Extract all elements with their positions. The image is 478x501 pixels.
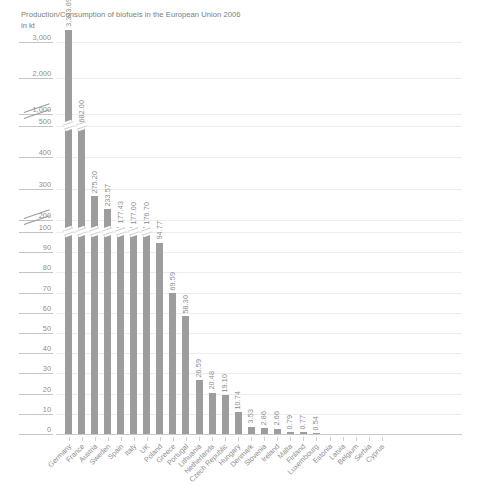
y-tick-label: 60 xyxy=(11,305,51,313)
bar-axis-break xyxy=(128,226,139,237)
bar-group[interactable]: 177.43 xyxy=(114,30,127,434)
x-tick xyxy=(82,437,83,441)
bar[interactable] xyxy=(169,293,176,434)
bar-group[interactable]: 19.10 xyxy=(219,30,232,434)
bar-value-label: 20.48 xyxy=(208,371,215,390)
y-tick-label: 10 xyxy=(11,406,51,414)
y-tick-rule xyxy=(19,157,53,158)
x-tick xyxy=(356,437,357,441)
y-tick-rule xyxy=(19,414,53,415)
x-tick xyxy=(343,437,344,441)
x-tick xyxy=(264,437,265,441)
bar-group[interactable] xyxy=(349,30,362,434)
plot-area: 3,0002,0001,0005004003002001009080706050… xyxy=(56,30,462,434)
bar-group[interactable] xyxy=(336,30,349,434)
y-tick-label: 2,000 xyxy=(11,70,51,78)
x-tick xyxy=(251,437,252,441)
bar-group[interactable]: 176.70 xyxy=(140,30,153,434)
bar[interactable] xyxy=(130,227,137,434)
bar-group[interactable]: 20.48 xyxy=(206,30,219,434)
bar-group[interactable]: 233.57 xyxy=(101,30,114,434)
x-tick xyxy=(277,437,278,441)
bar-group[interactable] xyxy=(375,30,388,434)
bar-value-label: 177.43 xyxy=(117,201,124,224)
y-tick-label: 80 xyxy=(11,264,51,272)
y-tick-label: 0 xyxy=(11,426,51,434)
x-tick xyxy=(316,437,317,441)
x-tick xyxy=(212,437,213,441)
bar-axis-break xyxy=(76,226,87,237)
x-tick xyxy=(173,437,174,441)
bar-group[interactable]: 682.00 xyxy=(75,30,88,434)
bar-group[interactable]: 0.79 xyxy=(284,30,297,434)
y-tick-label: 90 xyxy=(11,244,51,252)
y-tick-label: 30 xyxy=(11,365,51,373)
x-tick xyxy=(160,437,161,441)
bar-value-label: 0.77 xyxy=(300,415,307,429)
x-tick xyxy=(108,437,109,441)
bar-group[interactable]: 0.54 xyxy=(310,30,323,434)
bar-axis-break xyxy=(102,226,113,237)
bar-value-label: 69.59 xyxy=(169,272,176,291)
bar-value-label: 26.59 xyxy=(195,359,202,378)
bar-group[interactable]: 177.00 xyxy=(127,30,140,434)
page-title: Production/Consumption of biofuels in th… xyxy=(21,9,441,20)
bar[interactable] xyxy=(104,209,111,434)
bar-group[interactable] xyxy=(362,30,375,434)
chart-header: Production/Consumption of biofuels in th… xyxy=(21,9,441,31)
bar-value-label: 176.70 xyxy=(143,202,150,225)
y-tick-rule xyxy=(19,333,53,334)
bar-value-label: 94.77 xyxy=(156,221,163,240)
bar-group[interactable]: 275.20 xyxy=(88,30,101,434)
y-tick-rule xyxy=(19,126,53,127)
bar[interactable] xyxy=(78,125,85,434)
y-tick-rule xyxy=(19,252,53,253)
bar-group[interactable]: 26.59 xyxy=(193,30,206,434)
bar-group[interactable]: 3,343.69 xyxy=(62,30,75,434)
bar-value-label: 58.30 xyxy=(182,295,189,314)
bar-group[interactable]: 0.77 xyxy=(297,30,310,434)
bar-value-label: 0.79 xyxy=(287,415,294,429)
bar-group[interactable]: 2.86 xyxy=(258,30,271,434)
x-tick xyxy=(290,437,291,441)
x-axis: GermanyFranceAustriaSwedenSpainItalyUKPo… xyxy=(56,437,462,501)
bar-group[interactable]: 94.77 xyxy=(153,30,166,434)
y-tick-rule xyxy=(19,434,53,435)
bar-value-label: 233.57 xyxy=(104,184,111,207)
bar[interactable] xyxy=(143,227,150,434)
bar[interactable] xyxy=(182,316,189,434)
x-tick xyxy=(199,437,200,441)
y-tick-rule xyxy=(19,373,53,374)
bar-series: 3,343.69682.00275.20233.57177.43177.0017… xyxy=(56,30,462,434)
y-tick-rule xyxy=(19,394,53,395)
x-tick xyxy=(238,437,239,441)
bar-value-label: 3,343.69 xyxy=(65,0,72,27)
bar[interactable] xyxy=(117,227,124,434)
bar-group[interactable]: 69.59 xyxy=(166,30,179,434)
bar-group[interactable]: 10.74 xyxy=(232,30,245,434)
bar-value-label: 19.10 xyxy=(221,374,228,393)
y-tick-rule xyxy=(19,353,53,354)
bar-group[interactable]: 58.30 xyxy=(179,30,192,434)
x-tick xyxy=(303,437,304,441)
bar-axis-break xyxy=(63,120,74,131)
bar[interactable] xyxy=(156,243,163,434)
x-tick xyxy=(225,437,226,441)
y-tick-rule xyxy=(19,232,53,233)
y-tick-label: 20 xyxy=(11,386,51,394)
x-tick xyxy=(369,437,370,441)
y-tick-label: 70 xyxy=(11,285,51,293)
bar-group[interactable]: 2.66 xyxy=(271,30,284,434)
y-tick-rule xyxy=(19,189,53,190)
axis-break-lower xyxy=(22,214,52,228)
y-tick-label: 40 xyxy=(11,345,51,353)
bar-group[interactable] xyxy=(323,30,336,434)
bar[interactable] xyxy=(196,380,203,434)
x-tick xyxy=(69,437,70,441)
bar-axis-break xyxy=(63,226,74,237)
bar-group[interactable]: 3.53 xyxy=(245,30,258,434)
y-tick-rule xyxy=(19,313,53,314)
y-tick-label: 300 xyxy=(11,181,51,189)
x-tick xyxy=(147,437,148,441)
x-tick xyxy=(186,437,187,441)
